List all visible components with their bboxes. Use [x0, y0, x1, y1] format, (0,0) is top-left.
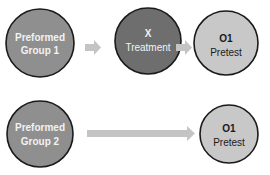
group-1-label-line2: Group 1: [21, 45, 60, 56]
row-2: Preformed Group 2 O1 Pretest: [7, 101, 258, 167]
arrow-shaft: [87, 130, 188, 137]
treatment-node: X Treatment: [115, 8, 181, 74]
pretest-1-label-line2: Pretest: [210, 47, 242, 58]
arrow-shaft: [176, 44, 185, 51]
group-2-label-line1: Preformed: [15, 122, 65, 133]
group-2-label-line2: Group 2: [21, 136, 60, 147]
pretest-1-node: O1 Pretest: [194, 11, 258, 75]
arrow-group1-to-treatment: [85, 40, 101, 55]
arrow-head-icon: [94, 40, 101, 55]
treatment-circle: [115, 8, 181, 74]
treatment-label-line2: Treatment: [125, 42, 170, 53]
treatment-label-line1: X: [145, 28, 152, 39]
arrow-shaft: [85, 44, 94, 51]
preformed-group-1-node: Preformed Group 1: [6, 9, 74, 77]
preformed-group-2-node: Preformed Group 2: [7, 101, 73, 167]
group-1-label-line1: Preformed: [15, 32, 65, 43]
row-1: Preformed Group 1 X Treatment O1 Pretest: [6, 8, 258, 77]
arrow-group2-to-pretest: [87, 126, 195, 141]
pretest-2-circle: [200, 105, 258, 163]
group-2-circle: [7, 101, 73, 167]
pretest-2-label-line2: Pretest: [213, 137, 245, 148]
group-1-circle: [6, 9, 74, 77]
pretest-2-label-line1: O1: [222, 123, 236, 134]
pretest-2-node: O1 Pretest: [200, 105, 258, 163]
research-design-diagram: Preformed Group 1 X Treatment O1 Pretest…: [0, 0, 270, 175]
arrow-head-icon: [187, 126, 195, 141]
arrow-head-icon: [185, 40, 192, 55]
pretest-1-label-line1: O1: [219, 33, 233, 44]
